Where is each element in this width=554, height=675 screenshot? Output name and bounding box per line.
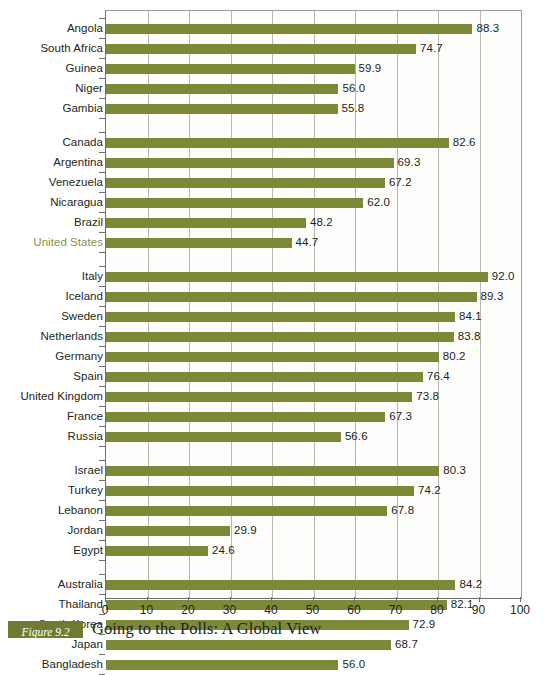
bar-row: 84.2 [106, 575, 521, 595]
x-axis-tick-label: 70 [389, 603, 402, 617]
x-axis-tick [437, 597, 438, 602]
category-label: Egypt [0, 540, 103, 560]
category-label: South Africa [0, 38, 103, 58]
bar [106, 392, 412, 402]
bar-row: 56.0 [106, 79, 521, 99]
category-axis-labels: AngolaSouth AfricaGuineaNigerGambiaCanad… [0, 10, 103, 597]
bar-value-label: 29.9 [234, 520, 257, 540]
bar-value-label: 67.8 [391, 500, 414, 520]
bar-row: 69.3 [106, 153, 521, 173]
category-label: Spain [0, 366, 103, 386]
x-axis-tick-label: 100 [510, 603, 530, 617]
bar [106, 486, 414, 496]
x-axis-tick [271, 597, 272, 602]
x-axis-tick [520, 597, 521, 602]
category-label: United Kingdom [0, 386, 103, 406]
category-label: Iceland [0, 286, 103, 306]
bar-row: 74.7 [106, 39, 521, 59]
bar-row: 29.9 [106, 521, 521, 541]
category-label: Angola [0, 18, 103, 38]
bar-row: 56.0 [106, 655, 521, 675]
bar-row: 80.2 [106, 347, 521, 367]
bar [106, 466, 439, 476]
bar-value-label: 83.8 [458, 326, 481, 346]
bar [106, 546, 208, 556]
figure-caption-title: Going to the Polls: A Global View [92, 619, 321, 639]
bar [106, 238, 292, 248]
bar [106, 104, 338, 114]
bar-row: 62.0 [106, 193, 521, 213]
category-label: Argentina [0, 152, 103, 172]
category-label: Gambia [0, 98, 103, 118]
bar [106, 292, 477, 302]
category-label: Guinea [0, 58, 103, 78]
bar [106, 218, 306, 228]
category-label: United States [0, 232, 103, 252]
bar [106, 64, 355, 74]
bar [106, 24, 472, 34]
bar-value-label: 80.2 [443, 346, 466, 366]
bar-row: 88.3 [106, 19, 521, 39]
bar-value-label: 74.7 [420, 38, 443, 58]
bar-row: 67.3 [106, 407, 521, 427]
bar-value-label: 82.6 [453, 132, 476, 152]
category-label: Lebanon [0, 500, 103, 520]
x-axis-tick [188, 597, 189, 602]
x-axis-tick-label: 90 [472, 603, 485, 617]
bar [106, 272, 488, 282]
bar-row: 82.6 [106, 133, 521, 153]
bar-row: 67.8 [106, 501, 521, 521]
bar-row: 56.6 [106, 427, 521, 447]
category-label: Venezuela [0, 172, 103, 192]
x-axis-tick-label: 60 [347, 603, 360, 617]
x-axis-tick [396, 597, 397, 602]
bar-value-label: 84.1 [459, 306, 482, 326]
bar-row: 73.8 [106, 387, 521, 407]
x-axis-tick [354, 597, 355, 602]
bar-value-label: 84.2 [459, 574, 482, 594]
bar [106, 198, 363, 208]
bar [106, 312, 455, 322]
category-label: Canada [0, 132, 103, 152]
bar-value-label: 89.3 [481, 286, 504, 306]
bar-row: 24.6 [106, 541, 521, 561]
x-axis-tick-label: 80 [430, 603, 443, 617]
plot-area: 88.374.759.956.055.882.669.367.262.048.2… [105, 10, 522, 599]
figure-caption: Figure 9.2 Going to the Polls: A Global … [0, 621, 554, 638]
x-axis-tick [147, 597, 148, 602]
bar-value-label: 74.2 [418, 480, 441, 500]
bar-value-label: 73.8 [416, 386, 439, 406]
bar-value-label: 59.9 [359, 58, 382, 78]
bar-value-label: 56.0 [342, 78, 365, 98]
x-axis-tick [230, 597, 231, 602]
x-axis-tick [479, 597, 480, 602]
bar-row: 67.2 [106, 173, 521, 193]
category-label: Netherlands [0, 326, 103, 346]
bar-value-label: 62.0 [367, 192, 390, 212]
category-label: Thailand [0, 594, 103, 614]
x-axis-tick-label: 40 [264, 603, 277, 617]
bar-row: 55.8 [106, 99, 521, 119]
bar-value-label: 67.3 [389, 406, 412, 426]
bar [106, 84, 338, 94]
x-axis-tick-label: 50 [306, 603, 319, 617]
category-label: Niger [0, 78, 103, 98]
bar [106, 640, 391, 650]
x-axis-tick-label: 0 [102, 603, 109, 617]
category-label: Jordan [0, 520, 103, 540]
bar [106, 138, 449, 148]
x-axis-tick [105, 597, 106, 602]
category-label: France [0, 406, 103, 426]
bar-value-label: 80.3 [443, 460, 466, 480]
bar-row: 48.2 [106, 213, 521, 233]
bar-row: 74.2 [106, 481, 521, 501]
x-axis-tick-label: 30 [223, 603, 236, 617]
bar-row: 76.4 [106, 367, 521, 387]
bar-value-label: 92.0 [492, 266, 515, 286]
bar-value-label: 55.8 [342, 98, 365, 118]
bar [106, 526, 230, 536]
bar-value-label: 88.3 [476, 18, 499, 38]
category-label: Brazil [0, 212, 103, 232]
bar-row: 83.8 [106, 327, 521, 347]
